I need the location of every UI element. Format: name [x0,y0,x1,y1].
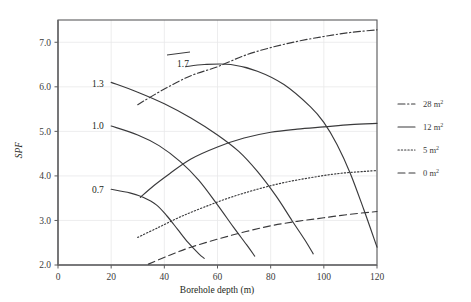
x-tick-label-80: 80 [266,272,276,282]
curve-value-label-0-7: 0.7 [92,185,104,195]
y-tick-label-6: 6.0 [39,82,51,92]
y-tick-label-7: 7.0 [39,38,51,48]
x-tick-label-60: 60 [213,272,223,282]
legend-exponent-0: 2 [436,168,439,174]
curve-value-label-1-3: 1.3 [92,79,104,89]
x-tick-label-20: 20 [106,272,116,282]
legend-exponent-5: 2 [436,145,439,151]
legend-exponent-28: 2 [440,99,443,105]
legend-exponent-12: 2 [440,122,443,128]
x-axis-title: Borehole depth (m) [180,285,254,296]
y-tick-label-4: 4.0 [39,171,51,181]
curve-value-label-1-0: 1.0 [92,121,104,131]
curve-value-label-1-7: 1.7 [177,59,189,69]
x-tick-label-100: 100 [317,272,332,282]
spf-vs-borehole-depth-chart: 020406080100120 2.03.04.05.06.07.0 1.71.… [0,0,471,302]
chart-background [0,0,471,302]
x-tick-label-0: 0 [56,272,61,282]
x-tick-label-120: 120 [370,272,385,282]
legend-label-12: 12 m2 [423,122,443,132]
legend-label-28: 28 m2 [423,99,443,109]
x-tick-label-40: 40 [160,272,170,282]
y-tick-label-5: 5.0 [39,127,51,137]
y-axis-title: SPF [14,142,24,159]
y-tick-label-2: 2.0 [39,260,51,270]
chart-figure: 020406080100120 2.03.04.05.06.07.0 1.71.… [0,0,471,302]
y-tick-label-3: 3.0 [39,216,51,226]
